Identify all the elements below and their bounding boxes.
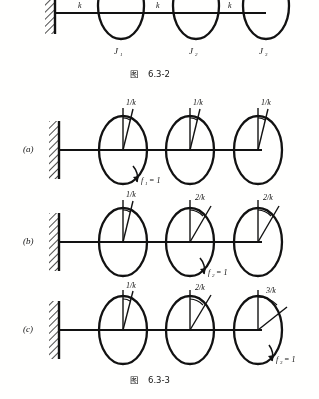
panel-a: (a) 1/k 1/k <box>23 98 282 186</box>
panel-c: (c) 1/k 2/k <box>23 281 295 365</box>
svg-text:J: J <box>259 46 264 56</box>
figure-canvas: k k k J 1 J 2 J 3 图 6.3-2 (a) <box>0 0 319 399</box>
torque-arrow-a: f 1 = 1 <box>133 166 160 186</box>
caption-6-3-3: 图 6.3-3 <box>130 375 170 385</box>
svg-text:1: 1 <box>145 181 148 186</box>
svg-text:= 1: = 1 <box>284 355 295 364</box>
shaft-label-k-2: k <box>156 1 160 10</box>
figure-6-3-2: k k k J 1 J 2 J 3 图 6.3-2 <box>45 0 289 79</box>
torque-arrow-c: f 3 = 1 <box>268 345 295 365</box>
disk-b-2: 2/k <box>166 193 214 276</box>
svg-text:6.3-2: 6.3-2 <box>148 69 170 79</box>
torque-arrow-b: f 2 = 1 <box>200 258 227 278</box>
disk-c-2: 2/k <box>166 283 214 364</box>
svg-text:2: 2 <box>212 273 215 278</box>
fixed-wall-a <box>49 121 59 179</box>
caption-6-3-2: 图 6.3-2 <box>130 69 170 79</box>
disk-b-3: 2/k <box>234 193 282 276</box>
svg-text:图: 图 <box>130 375 139 385</box>
angle-label-b-1: 1/k <box>126 190 136 199</box>
fixed-wall-b <box>49 213 59 271</box>
angle-label-c-2: 2/k <box>195 283 205 292</box>
disk-b-1: 1/k <box>99 190 147 276</box>
fixed-wall-c <box>49 301 59 359</box>
svg-text:= 1: = 1 <box>149 176 160 185</box>
angle-label-b-2: 2/k <box>195 193 205 202</box>
panel-a-label: (a) <box>23 144 34 154</box>
svg-text:J: J <box>114 46 119 56</box>
disk-c-1: 1/k <box>99 281 147 364</box>
svg-text:J: J <box>189 46 194 56</box>
panel-b: (b) 1/k 2/k <box>23 190 282 278</box>
disk-label-j1: J 1 <box>114 46 123 57</box>
svg-text:3: 3 <box>265 52 268 57</box>
angle-label-b-3: 2/k <box>263 193 273 202</box>
angle-label-a-2: 1/k <box>193 98 203 107</box>
svg-text:6.3-3: 6.3-3 <box>148 375 170 385</box>
angle-label-c-3: 3/k <box>265 286 276 295</box>
angle-label-a-1: 1/k <box>126 98 136 107</box>
disk-2-top <box>173 0 219 39</box>
disk-a-3: 1/k <box>234 98 282 184</box>
fixed-wall-top <box>45 0 55 34</box>
panel-c-label: (c) <box>23 324 33 334</box>
disk-c-3: 3/k <box>234 286 287 364</box>
disk-label-j3: J 3 <box>259 46 268 57</box>
shaft-label-k-3: k <box>228 1 232 10</box>
disk-3-top <box>243 0 289 39</box>
svg-text:2: 2 <box>195 52 198 57</box>
svg-text:3: 3 <box>280 360 283 365</box>
shaft-label-k-1: k <box>78 1 82 10</box>
svg-text:= 1: = 1 <box>216 268 227 277</box>
disk-1-top <box>98 0 144 39</box>
disk-a-2: 1/k <box>166 98 214 184</box>
panel-b-label: (b) <box>23 236 34 246</box>
disk-label-j2: J 2 <box>189 46 198 57</box>
angle-label-a-3: 1/k <box>261 98 271 107</box>
svg-text:图: 图 <box>130 69 139 79</box>
svg-text:1: 1 <box>120 52 123 57</box>
scanned-page: k k k J 1 J 2 J 3 图 6.3-2 (a) <box>0 0 319 399</box>
angle-label-c-1: 1/k <box>126 281 136 290</box>
disk-a-1: 1/k <box>99 98 147 184</box>
